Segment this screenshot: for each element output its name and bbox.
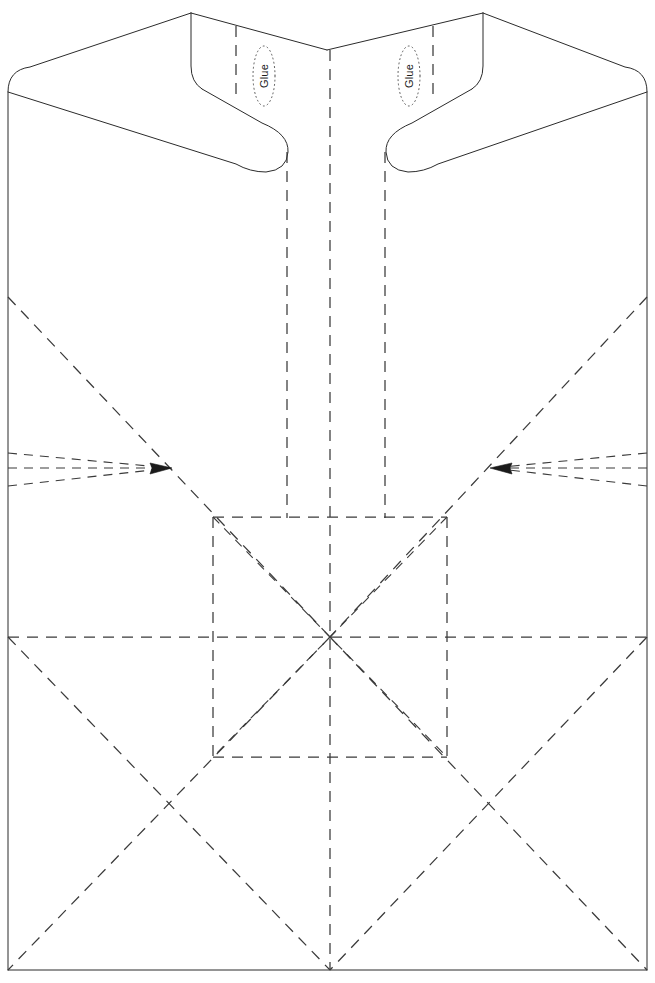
left-handle-cutout [8, 89, 288, 172]
fold-lines-group [8, 26, 647, 970]
right-arrow-fold-group [490, 453, 647, 486]
left-arrow-head [150, 463, 172, 474]
left-arrow-fold-upper [8, 453, 170, 468]
template-sheet: Glue Glue [0, 0, 655, 983]
right-arrow-fold-upper [492, 453, 647, 468]
left-flap-cut-edge [191, 13, 202, 89]
left-glue-label: Glue [258, 64, 270, 88]
left-arrow-fold-group [8, 453, 172, 486]
left-arrow-fold-lower [8, 468, 170, 486]
right-glue-zone-group: Glue [398, 46, 420, 106]
right-arrow-fold-lower [492, 468, 647, 486]
right-body-cut-edge [483, 13, 647, 970]
right-flap-cut-edge [472, 13, 483, 89]
right-glue-label: Glue [403, 64, 415, 88]
top-notch-right-edge [327, 13, 483, 50]
cut-outline-group [8, 13, 647, 970]
right-arrow-head [490, 463, 512, 474]
diagonal-left-edge-to-bottom-center [8, 637, 330, 970]
left-body-cut-edge [8, 13, 191, 970]
right-handle-cutout [386, 89, 647, 172]
left-glue-zone-group: Glue [253, 46, 275, 106]
bag-template-drawing: Glue Glue [0, 0, 655, 983]
diagonal-upper-left-to-center [8, 297, 330, 637]
diagonal-upper-right-to-center [330, 297, 647, 637]
top-notch-left-edge [191, 13, 327, 50]
